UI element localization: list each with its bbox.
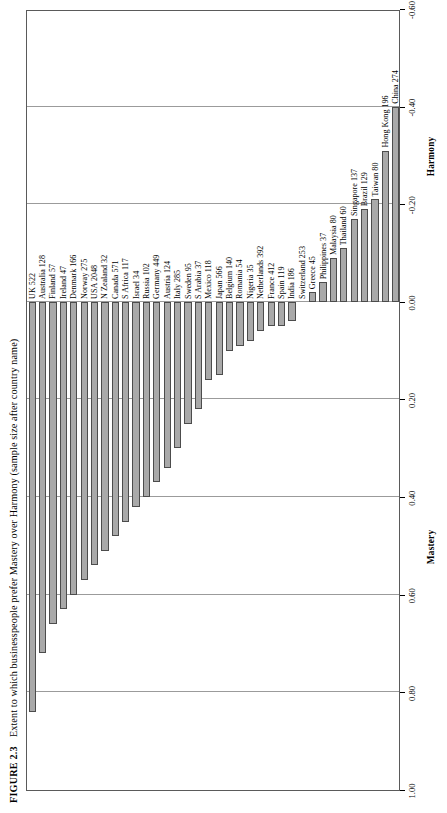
axis-tick	[400, 497, 405, 498]
bar-category-label: S Arabia 37	[194, 261, 203, 299]
bar-category-label: France 412	[267, 263, 276, 299]
bar-category-label: Japan 566	[215, 266, 224, 299]
axis-tick-label: 0.40	[407, 491, 417, 506]
axis-title-harmony: Harmony	[426, 137, 436, 177]
bar-category-label: Ireland 47	[59, 266, 68, 299]
bar	[132, 302, 139, 507]
axis-tick-label: 0.00	[407, 295, 417, 310]
bar-category-label: Thailand 60	[339, 206, 348, 245]
rotated-figure-container: FIGURE 2.3Extent to which businesspeople…	[0, 0, 447, 813]
axis-tick-label: -0.20	[407, 196, 417, 214]
bar-category-label: Russia 102	[142, 263, 151, 299]
bar	[205, 302, 212, 380]
bar-chart: UK 522Australia 128Finland 57Ireland 47D…	[26, 10, 400, 791]
bar-category-label: S Africa 117	[121, 258, 130, 299]
axis-tick-label: 0.80	[407, 686, 417, 701]
bar-category-label: Israel 34	[132, 271, 141, 299]
axis-tick-label: -0.40	[407, 99, 417, 117]
bar	[319, 282, 326, 302]
gridline	[27, 106, 399, 107]
bar-category-label: Taiwan 80	[371, 163, 380, 197]
bar	[39, 302, 46, 653]
axis-tick	[400, 400, 405, 401]
axis-tick	[400, 692, 405, 693]
plot-area: UK 522Australia 128Finland 57Ireland 47D…	[26, 10, 400, 791]
bar-category-label: Australia 128	[38, 255, 47, 299]
bar	[288, 302, 295, 322]
gridline	[27, 203, 399, 204]
bar	[330, 258, 337, 302]
bar-category-label: Denmark 166	[69, 255, 78, 299]
bar	[29, 302, 36, 712]
bar	[60, 302, 67, 610]
bar-category-label: China 274	[391, 70, 400, 104]
bar-category-label: Norway 275	[80, 259, 89, 299]
figure-page: FIGURE 2.3Extent to which businesspeople…	[0, 0, 447, 813]
axis-tick-label: 1.00	[407, 783, 417, 798]
bar-category-label: India 186	[287, 268, 296, 299]
bar-category-label: Switzerland 253	[298, 246, 307, 299]
bar-category-label: Romania 54	[235, 260, 244, 299]
axis-tick-label: 0.20	[407, 393, 417, 408]
gridline	[27, 691, 399, 692]
axis-title-mastery: Mastery	[426, 530, 436, 564]
bar-category-label: USA 2048	[90, 265, 99, 299]
bar-category-label: Malaysia 80	[329, 215, 338, 255]
bar	[216, 302, 223, 375]
bar-category-label: Belgium 140	[225, 257, 234, 299]
bar-category-label: Singapore 137	[350, 169, 359, 216]
bar	[81, 302, 88, 580]
axis-tick-label: -0.60	[407, 1, 417, 19]
bar	[101, 302, 108, 551]
axis-tick	[400, 595, 405, 596]
axis-tick	[400, 204, 405, 205]
bar	[278, 302, 285, 326]
bar	[351, 219, 358, 302]
axis-tick	[400, 790, 405, 791]
bar	[340, 248, 347, 302]
bar	[122, 302, 129, 522]
bar-category-label: Netherlands 392	[256, 246, 265, 299]
bar-category-label: Italy 285	[173, 270, 182, 299]
bar-category-label: Germany 449	[152, 255, 161, 299]
bar-category-label: Greece 45	[308, 256, 317, 289]
bar-category-label: Austria 124	[163, 261, 172, 299]
bar	[153, 302, 160, 483]
bar-category-label: Sweden 95	[184, 263, 193, 299]
bar	[382, 151, 389, 302]
bar	[257, 302, 264, 331]
bar	[309, 292, 316, 302]
bar	[392, 107, 399, 302]
axis-tick	[400, 9, 405, 10]
bar	[91, 302, 98, 566]
bar	[143, 302, 150, 497]
axis-tick	[400, 107, 405, 108]
bar	[112, 302, 119, 536]
bar	[49, 302, 56, 624]
figure-caption-text: Extent to which businesspeople prefer Ma…	[8, 339, 19, 737]
bar	[371, 199, 378, 302]
figure-caption: FIGURE 2.3Extent to which businesspeople…	[8, 8, 20, 803]
gridline	[27, 594, 399, 595]
bar-category-label: UK 522	[28, 273, 37, 299]
bar-category-label: Philippines 37	[319, 233, 328, 280]
bar	[164, 302, 171, 468]
axis-tick	[400, 302, 405, 303]
bar-category-label: N Zealand 32	[100, 255, 109, 299]
bar	[184, 302, 191, 424]
figure-number: FIGURE 2.3	[8, 746, 19, 803]
bar-category-label: Canada 571	[111, 260, 120, 298]
value-axis: 1.000.800.600.400.200.00-0.20-0.40-0.60M…	[400, 10, 446, 791]
bar-category-label: Nigeria 35	[246, 264, 255, 298]
bar	[226, 302, 233, 351]
bar	[361, 209, 368, 302]
bar	[70, 302, 77, 595]
bar-category-label: Hong Kong 196	[381, 95, 390, 147]
bar	[268, 302, 275, 326]
bar-category-label: Spain 119	[277, 267, 286, 299]
bar-category-label: Mexico 118	[204, 260, 213, 299]
bar-category-label: Finland 57	[48, 264, 57, 299]
bar-category-label: Brazil 129	[360, 172, 369, 206]
bar	[195, 302, 202, 409]
bar	[174, 302, 181, 448]
